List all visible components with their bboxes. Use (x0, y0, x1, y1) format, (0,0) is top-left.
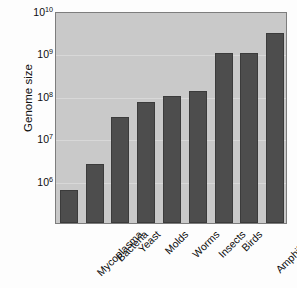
y-tick-label: 108 (9, 91, 53, 103)
bar (189, 91, 207, 223)
x-tick-label: Insects (216, 228, 248, 260)
plot-area (55, 12, 287, 224)
x-tick-label: Molds (162, 228, 190, 256)
y-tick-mantissa: 10 (37, 48, 49, 60)
y-tick-mantissa: 10 (33, 6, 45, 18)
x-tick-label: Bacteria (114, 228, 150, 264)
x-tick-label: Worms (190, 228, 222, 260)
x-tick-label: Mammals (296, 228, 297, 269)
bar (266, 33, 284, 223)
y-tick-label: 109 (9, 48, 53, 60)
y-tick-mantissa: 10 (37, 133, 49, 145)
bar (240, 53, 258, 223)
bar (111, 117, 129, 223)
y-tick-exponent: 6 (49, 174, 53, 183)
bar (163, 96, 181, 223)
y-tick-label: 1010 (9, 6, 53, 18)
bar (86, 164, 104, 223)
y-tick-mantissa: 10 (37, 176, 49, 188)
y-tick-exponent: 8 (49, 89, 53, 98)
bar (60, 190, 78, 223)
x-tick-label: Mycoplasma (94, 228, 144, 278)
x-tick-label: Birds (239, 228, 264, 253)
y-axis-tick-labels: 1010109108107106 (8, 0, 53, 288)
bar (137, 102, 155, 223)
x-tick-label: Amphibians (273, 228, 297, 275)
x-tick-label: Yeast (136, 228, 163, 255)
genome-size-bar-chart: Genome size 1010109108107106 MycoplasmaB… (0, 0, 297, 288)
bar-series (56, 13, 286, 223)
y-tick-exponent: 10 (45, 5, 53, 14)
y-tick-label: 107 (9, 133, 53, 145)
y-tick-exponent: 9 (49, 47, 53, 56)
y-tick-exponent: 7 (49, 132, 53, 141)
bar (215, 53, 233, 223)
y-tick-mantissa: 10 (37, 91, 49, 103)
y-tick-label: 106 (9, 176, 53, 188)
